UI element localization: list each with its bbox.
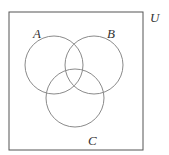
set-b-label: B	[107, 26, 115, 41]
set-c-label: C	[88, 133, 97, 148]
set-b-circle	[65, 36, 123, 94]
set-a-label: A	[32, 26, 41, 41]
universe-label: U	[150, 10, 161, 25]
universe-box	[9, 12, 143, 150]
set-a-circle	[25, 36, 83, 94]
set-c-circle	[46, 69, 104, 127]
venn-diagram: U A B C	[0, 0, 169, 155]
